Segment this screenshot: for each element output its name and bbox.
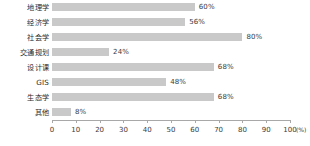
x-axis-tick: [171, 120, 172, 123]
x-axis-tick: [52, 120, 53, 123]
x-axis-tick-label: 30: [119, 125, 128, 135]
bar: [52, 3, 195, 11]
bar: [52, 48, 109, 56]
bar-row: 生态学68%: [0, 90, 310, 105]
bar-value-label: 68%: [218, 62, 234, 72]
category-label: 社会学: [0, 33, 52, 42]
bar-row: 设计课68%: [0, 60, 310, 75]
plot-area: 地理学60%经济学56%社会学80%交通规划24%设计课68%GIS48%生态学…: [0, 0, 310, 120]
bar-value-label: 56%: [189, 17, 205, 27]
bar-row: 地理学60%: [0, 0, 310, 15]
x-axis-tick: [76, 120, 77, 123]
x-axis-tick: [242, 120, 243, 123]
x-axis-tick-label: 50: [167, 125, 176, 135]
x-axis-tick-label: 60: [190, 125, 199, 135]
x-axis-unit-label: (%): [296, 125, 306, 135]
x-axis-tick: [195, 120, 196, 123]
x-axis-tick-label: 90: [262, 125, 271, 135]
x-axis-tick: [290, 120, 291, 123]
bar-row: 其他8%: [0, 105, 310, 120]
category-label: GIS: [0, 78, 52, 87]
bar-value-label: 60%: [199, 2, 215, 12]
bar-track: 56%: [52, 15, 310, 30]
bar-row: 经济学56%: [0, 15, 310, 30]
category-label: 经济学: [0, 18, 52, 27]
x-axis-tick-label: 80: [238, 125, 247, 135]
x-axis-tick-label: 40: [143, 125, 152, 135]
bar-row: GIS48%: [0, 75, 310, 90]
bar-row: 交通规划24%: [0, 45, 310, 60]
x-axis-tick: [100, 120, 101, 123]
bar-value-label: 8%: [75, 107, 86, 117]
x-axis-tick: [266, 120, 267, 123]
bar-track: 8%: [52, 105, 310, 120]
bar-value-label: 24%: [113, 47, 129, 57]
bar-row: 社会学80%: [0, 30, 310, 45]
bar-value-label: 80%: [246, 32, 262, 42]
bar-track: 48%: [52, 75, 310, 90]
bar: [52, 108, 71, 116]
x-axis-tick-label: 20: [95, 125, 104, 135]
category-label: 生态学: [0, 93, 52, 102]
category-label: 地理学: [0, 3, 52, 12]
bar-value-label: 68%: [218, 92, 234, 102]
bar-track: 60%: [52, 0, 310, 15]
bar-track: 24%: [52, 45, 310, 60]
bar: [52, 63, 214, 71]
bar-track: 80%: [52, 30, 310, 45]
x-axis-tick: [123, 120, 124, 123]
bar: [52, 18, 185, 26]
x-axis-tick-label: 0: [50, 125, 54, 135]
x-axis-tick: [219, 120, 220, 123]
x-axis-tick: [147, 120, 148, 123]
category-label: 交通规划: [0, 48, 52, 57]
bar: [52, 93, 214, 101]
category-label: 设计课: [0, 63, 52, 72]
x-axis-tick-label: 70: [214, 125, 223, 135]
category-label: 其他: [0, 108, 52, 117]
x-axis-tick-label: 10: [71, 125, 80, 135]
bar: [52, 78, 166, 86]
x-axis-tick-label: 100: [283, 125, 296, 135]
bar-value-label: 48%: [170, 77, 186, 87]
x-axis: 0102030405060708090100(%): [0, 120, 310, 146]
horizontal-bar-chart: 地理学60%经济学56%社会学80%交通规划24%设计课68%GIS48%生态学…: [0, 0, 310, 146]
bar-track: 68%: [52, 90, 310, 105]
bar: [52, 33, 242, 41]
bar-track: 68%: [52, 60, 310, 75]
